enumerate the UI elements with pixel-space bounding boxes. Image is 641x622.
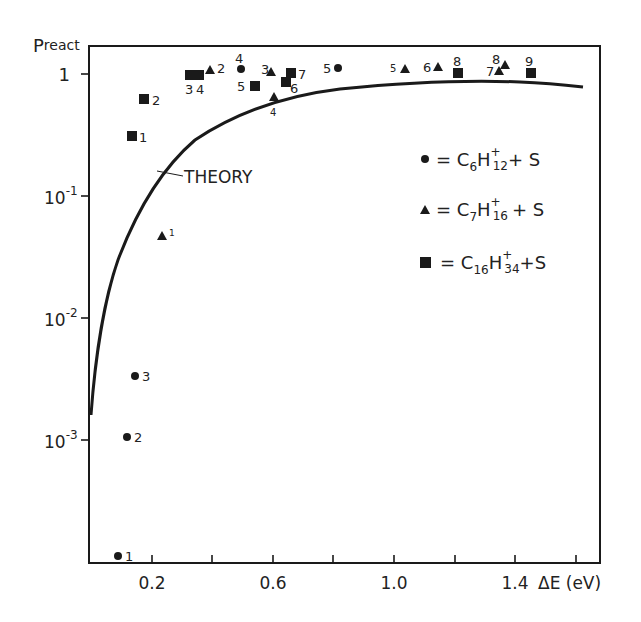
series-c16h34: 1 2 3 4 5 6 7 8 9 [127, 54, 536, 145]
x-tick-0.6: 0.6 [259, 573, 286, 593]
y-axis [81, 74, 89, 440]
x-axis-title: ΔE (eV) [538, 573, 601, 593]
legend-item-c7h16: = C7H+16+ S [420, 195, 544, 224]
series-c6h12: 1 2 3 4 5 [114, 51, 342, 564]
svg-text:= C16H+34+S: = C16H+34+S [440, 248, 546, 277]
svg-text:3: 3 [185, 82, 193, 97]
x-tick-1.0: 1.0 [380, 573, 407, 593]
svg-text:= C7H+16+ S: = C7H+16+ S [436, 195, 544, 224]
svg-text:4: 4 [235, 51, 243, 66]
svg-text:2: 2 [152, 93, 160, 108]
svg-text:6: 6 [423, 60, 431, 75]
legend-item-c6h12: = C6H+12+ S [421, 145, 540, 174]
theory-label: THEORY [183, 167, 253, 187]
y-axis-title: Preact [33, 35, 80, 56]
svg-text:1: 1 [125, 549, 133, 564]
svg-text:= C6H+12+ S: = C6H+12+ S [436, 145, 540, 174]
chart-canvas: 1 10-1 10-2 10-3 Preact 0.2 0.6 1.0 1.4 … [0, 0, 641, 622]
svg-text:7: 7 [298, 67, 306, 82]
y-tick-1e-3: 10-3 [44, 428, 78, 452]
y-tick-1e-2: 10-2 [44, 306, 78, 330]
square-marker-icon [420, 257, 431, 268]
plot-frame [89, 46, 600, 563]
svg-text:2: 2 [134, 430, 142, 445]
svg-text:1: 1 [139, 130, 147, 145]
x-axis [152, 555, 576, 563]
svg-text:3: 3 [142, 369, 150, 384]
svg-text:8: 8 [453, 54, 461, 69]
y-tick-labels: 1 10-1 10-2 10-3 [44, 64, 78, 452]
triangle-marker-icon [420, 205, 430, 214]
svg-text:5: 5 [390, 63, 396, 74]
svg-text:2: 2 [217, 61, 225, 76]
x-tick-labels: 0.2 0.6 1.0 1.4 [138, 573, 528, 593]
svg-text:3: 3 [261, 62, 269, 77]
svg-text:9: 9 [525, 54, 533, 69]
legend-item-c16h34: = C16H+34+S [420, 248, 546, 277]
y-tick-1e-1: 10-1 [44, 184, 78, 208]
svg-text:1: 1 [169, 228, 175, 238]
svg-text:5: 5 [323, 61, 331, 76]
circle-marker-icon [421, 155, 429, 163]
svg-text:4: 4 [196, 82, 204, 97]
legend: = C6H+12+ S = C7H+16+ S = C16H+34+S [420, 145, 546, 277]
svg-text:4: 4 [270, 107, 276, 118]
svg-text:5: 5 [237, 79, 245, 94]
x-tick-0.2: 0.2 [138, 573, 165, 593]
svg-text:6: 6 [290, 81, 298, 96]
x-tick-1.4: 1.4 [501, 573, 528, 593]
svg-text:8: 8 [492, 52, 500, 67]
y-tick-1: 1 [59, 64, 70, 85]
